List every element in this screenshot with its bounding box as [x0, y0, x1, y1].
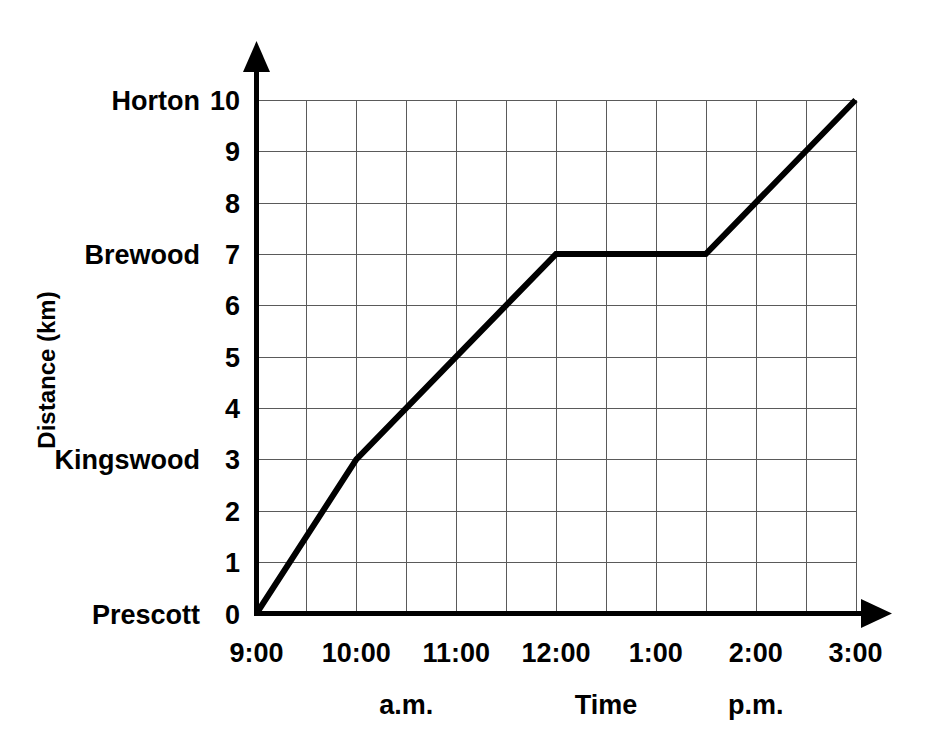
y-tick-labels: 012345678910	[210, 86, 240, 630]
x-tick-label: 9:00	[229, 638, 283, 668]
x-tick-label: 3:00	[828, 638, 882, 668]
graph-canvas: 012345678910 HortonBrewoodKingswoodPresc…	[0, 0, 933, 752]
y-tick-label: 6	[225, 291, 240, 321]
x-axis-arrowhead	[861, 599, 892, 628]
period-label: p.m.	[728, 690, 784, 720]
place-name-labels: HortonBrewoodKingswoodPrescott	[55, 86, 200, 630]
place-label-horton: Horton	[112, 86, 200, 116]
y-tick-label: 1	[225, 548, 240, 578]
y-tick-label: 10	[210, 86, 240, 116]
y-axis-title-text: Distance (km)	[33, 291, 60, 448]
y-axis-title: Distance (km)	[33, 291, 60, 448]
y-tick-label: 4	[225, 394, 240, 424]
period-label: a.m.	[379, 690, 433, 720]
x-axis	[254, 599, 892, 628]
y-tick-label: 5	[225, 343, 240, 373]
x-tick-label: 2:00	[729, 638, 783, 668]
period-labels: a.m.Timep.m.	[379, 690, 783, 720]
distance-time-graph: 012345678910 HortonBrewoodKingswoodPresc…	[0, 0, 933, 752]
y-tick-label: 2	[225, 497, 240, 527]
period-label: Time	[575, 690, 638, 720]
y-tick-label: 8	[225, 189, 240, 219]
x-tick-label: 10:00	[322, 638, 391, 668]
place-label-prescott: Prescott	[92, 600, 200, 630]
vertical-gridlines	[258, 100, 857, 614]
y-axis-arrowhead	[243, 41, 270, 72]
y-tick-label: 9	[225, 137, 240, 167]
y-tick-label: 0	[225, 600, 240, 630]
x-tick-labels: 9:0010:0011:0012:001:002:003:00	[229, 638, 882, 668]
y-axis	[243, 41, 270, 613]
y-tick-label: 7	[225, 240, 240, 270]
x-tick-label: 1:00	[629, 638, 683, 668]
x-tick-label: 12:00	[521, 638, 590, 668]
place-label-kingswood: Kingswood	[55, 445, 200, 475]
y-tick-label: 3	[225, 445, 240, 475]
x-tick-label: 11:00	[422, 638, 490, 668]
place-label-brewood: Brewood	[84, 240, 200, 270]
